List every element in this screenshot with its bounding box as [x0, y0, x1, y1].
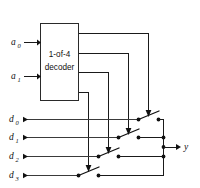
arrowhead-d3 — [23, 173, 28, 178]
output-bus-node-d1 — [162, 136, 166, 140]
label-d3-subscript: 3 — [15, 175, 20, 182]
arrowhead-d2 — [23, 154, 28, 159]
label-a0-subscript: 0 — [18, 42, 22, 49]
schematic-canvas: 1-of-4 decoder — [0, 0, 200, 188]
switch-d1-left-contact — [117, 136, 121, 140]
switch-d2[interactable] — [97, 148, 164, 158]
label-d2-base: d — [9, 151, 14, 161]
label-d3-base: d — [9, 170, 14, 180]
decoder-output-1-wire — [79, 54, 129, 129]
label-d1: d 1 — [9, 132, 19, 144]
label-d1-subscript: 1 — [16, 137, 19, 144]
label-d2: d 2 — [9, 151, 20, 163]
decoder-output-3-wire — [79, 93, 89, 166]
label-a1-subscript: 1 — [18, 76, 21, 83]
output-bus-node-d2 — [162, 155, 166, 159]
switch-d3-left-contact — [77, 174, 81, 178]
label-d0: d 0 — [9, 114, 20, 126]
switch-d0-left-contact — [137, 118, 141, 122]
decoder-box — [41, 24, 79, 101]
label-y: y — [183, 142, 189, 152]
label-d3: d 3 — [9, 170, 20, 182]
arrowhead-y — [176, 144, 181, 150]
decoder-label-line1: 1-of-4 — [49, 50, 71, 59]
label-d2-subscript: 2 — [16, 156, 20, 163]
label-a0-base: a — [11, 37, 16, 47]
label-d0-subscript: 0 — [16, 119, 20, 126]
circuit-diagram-figure: 1-of-4 decoder — [0, 0, 200, 188]
decoder-label-line2: decoder — [45, 63, 75, 72]
label-a1: a 1 — [11, 71, 21, 83]
decoder-output-2-wire — [79, 73, 109, 148]
label-d0-base: d — [9, 114, 14, 124]
switch-d2-left-contact — [97, 155, 101, 159]
label-d1-base: d — [9, 132, 14, 142]
label-a0: a 0 — [11, 37, 22, 49]
arrowhead-d1 — [23, 135, 28, 140]
arrowhead-d0 — [23, 117, 28, 122]
switch-d1[interactable] — [117, 129, 164, 139]
label-a1-base: a — [11, 71, 16, 81]
